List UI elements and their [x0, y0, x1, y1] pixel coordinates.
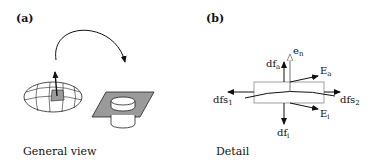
label-dfa: dfa: [266, 58, 280, 71]
plate-with-cylinder: [92, 92, 154, 128]
Ea-arrow: [290, 76, 318, 82]
label-en: en: [293, 45, 304, 58]
caption-detail: Detail: [216, 145, 249, 158]
label-dfs2: dfs2: [340, 94, 360, 107]
label-Ea: Ea: [320, 65, 332, 78]
transfer-arc-arrow: [56, 30, 125, 62]
label-dfi: dfi: [277, 127, 290, 140]
Ei-arrow: [290, 103, 318, 109]
label-Ei: Ei: [320, 108, 330, 121]
interface-curve: [245, 91, 335, 98]
label-dfs1: dfs1: [213, 94, 233, 107]
ellipsoid-surface: [24, 72, 82, 112]
detail-figure: dfa en Ea dfs1 dfs2 Ei dfi: [213, 45, 360, 140]
caption-general-view: General view: [23, 145, 96, 158]
general-view-figure: [24, 30, 154, 128]
diagram-canvas: dfa en Ea dfs1 dfs2 Ei dfi: [0, 0, 374, 163]
